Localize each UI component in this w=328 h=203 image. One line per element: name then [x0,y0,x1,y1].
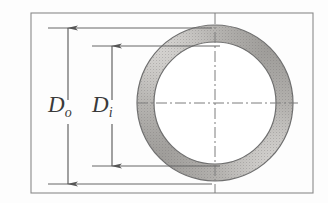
figure-container: Do Di [0,0,328,203]
annulus-diagram: Do Di [0,0,328,203]
label-outer-diameter-letter: D [47,92,65,117]
label-inner-diameter-subscript: i [109,105,113,120]
label-outer-diameter-subscript: o [65,105,72,120]
label-inner-diameter-letter: D [91,92,109,117]
